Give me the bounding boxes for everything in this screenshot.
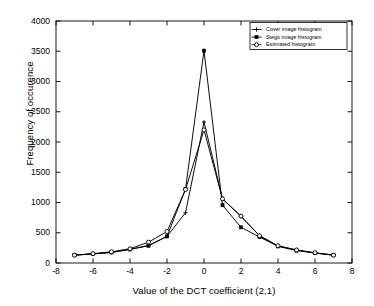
series-3 xyxy=(73,128,336,257)
x-tick-label: -2 xyxy=(152,266,182,276)
x-tick-label: 4 xyxy=(263,266,293,276)
legend-label-3: Estimated histogram xyxy=(266,41,315,47)
x-tick-label: 2 xyxy=(226,266,256,276)
x-tick-label: 6 xyxy=(300,266,330,276)
y-tick-label: 500 xyxy=(10,227,50,237)
x-tick-label: 0 xyxy=(189,266,219,276)
x-tick-marks xyxy=(56,21,352,263)
y-tick-label: 3500 xyxy=(10,46,50,56)
axes-frame xyxy=(56,21,352,263)
x-tick-label: -6 xyxy=(78,266,108,276)
figure-container: Frequency of occurence Value of the DCT … xyxy=(0,0,374,306)
x-tick-label: 8 xyxy=(337,266,367,276)
chart-plot-area xyxy=(0,0,374,306)
series-2 xyxy=(73,49,335,257)
data-series-layer xyxy=(72,49,335,257)
y-tick-label: 4000 xyxy=(10,16,50,26)
y-tick-label: 3000 xyxy=(10,76,50,86)
series-1 xyxy=(72,120,335,257)
y-tick-label: 1000 xyxy=(10,197,50,207)
x-axis-label: Value of the DCT coefficient (2,1) xyxy=(56,285,352,296)
legend-label-2: Stego image histogram xyxy=(266,34,321,40)
y-tick-label: 2500 xyxy=(10,106,50,116)
x-tick-label: -4 xyxy=(115,266,145,276)
x-tick-label: -8 xyxy=(41,266,71,276)
y-tick-label: 1500 xyxy=(10,167,50,177)
y-tick-label: 2000 xyxy=(10,137,50,147)
y-tick-marks xyxy=(56,21,352,263)
legend-label-1: Cover image histogram xyxy=(266,26,322,32)
